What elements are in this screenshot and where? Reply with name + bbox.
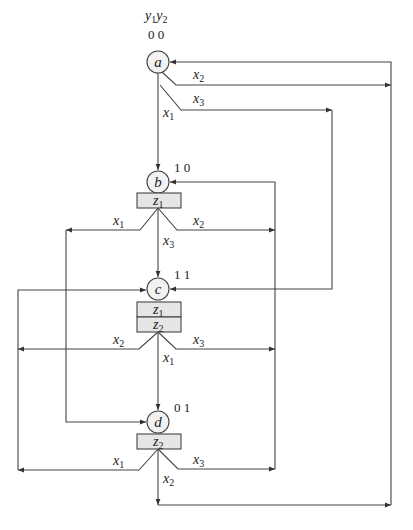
- svg-text:b: b: [154, 174, 162, 190]
- cond-d-x3: x3: [192, 452, 204, 469]
- state-node-c[interactable]: c: [147, 278, 169, 300]
- svg-text:d: d: [154, 414, 162, 430]
- svg-text:y1y2: y1y2: [143, 8, 167, 25]
- cond-b-x3: x3: [162, 233, 174, 250]
- cond-a-x1: x1: [162, 105, 174, 122]
- edge-return-to-c: [18, 290, 146, 470]
- edge-return-to-b: [170, 182, 275, 469]
- state-node-a[interactable]: a: [147, 51, 169, 73]
- output-box-d-z2: z2: [137, 434, 181, 451]
- state-diagram: y1y2 a 0 0 x1 x2 x3 b 1 0 z1 x1 x2 x3 c …: [0, 0, 413, 530]
- state-code-c: 1 1: [174, 267, 190, 282]
- edge-d-x1: [18, 449, 158, 470]
- cond-a-x3: x3: [192, 91, 204, 108]
- state-code-b: 1 0: [174, 160, 190, 175]
- state-variables-header: y1y2: [143, 8, 167, 25]
- edge-d-x3: [158, 449, 275, 469]
- state-code-d: 0 1: [174, 400, 190, 415]
- cond-d-x2: x2: [162, 471, 174, 488]
- cond-b-x1: x1: [112, 213, 124, 230]
- edge-b-x2: [158, 208, 275, 230]
- edge-return-to-a: [170, 62, 391, 505]
- state-code-a: 0 0: [148, 27, 164, 42]
- edge-to-d-left: [66, 230, 146, 422]
- state-node-b[interactable]: b: [147, 171, 169, 193]
- edge-a-c-path: [170, 110, 332, 289]
- svg-text:c: c: [155, 281, 162, 297]
- edge-b-x1: [66, 208, 158, 230]
- cond-d-x1: x1: [112, 453, 124, 470]
- cond-a-x2: x2: [192, 67, 204, 84]
- output-box-c-z2: z2: [137, 317, 181, 334]
- output-box-b-z1: z1: [137, 193, 181, 210]
- cond-c-x3: x3: [192, 332, 204, 349]
- cond-c-x1: x1: [162, 350, 174, 367]
- cond-b-x2: x2: [192, 213, 204, 230]
- state-node-d[interactable]: d: [147, 411, 169, 433]
- edge-c-x2: [18, 332, 158, 349]
- svg-text:a: a: [154, 54, 162, 70]
- edge-c-x3: [158, 332, 275, 349]
- cond-c-x2: x2: [112, 332, 124, 349]
- edge-a-x3: [160, 85, 332, 110]
